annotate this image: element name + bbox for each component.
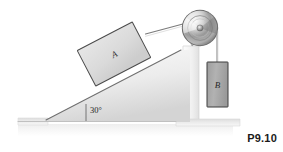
- incline-angle-label: 30°: [90, 105, 102, 115]
- figure-id-label: P9.10: [247, 133, 277, 144]
- physics-figure-p910: 30° A B P9.10: [0, 0, 283, 152]
- figure-canvas: 30° A B: [0, 0, 283, 152]
- block-b-label: B: [215, 80, 221, 90]
- pulley-hub: [197, 25, 203, 31]
